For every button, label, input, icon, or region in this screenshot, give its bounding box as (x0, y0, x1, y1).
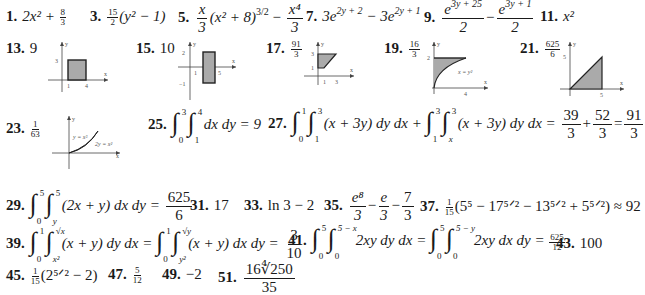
numerator: 39 (562, 108, 581, 125)
answer-49: 49.−2 (162, 266, 202, 283)
answer-25: 25.∫30∫41dx dy = 9 (148, 112, 261, 140)
answer-text: −2 (186, 266, 202, 282)
answer-33: 33.ln 3 − 2 (244, 197, 314, 214)
upper-limit: 5 − x (338, 223, 357, 233)
answer-number: 21. (520, 40, 539, 56)
denominator: 3 (196, 19, 208, 35)
upper-limit: 1 (40, 226, 45, 236)
y-arrow-icon (316, 42, 320, 46)
fraction: 913 (291, 40, 302, 59)
fraction: 115 (31, 267, 40, 286)
answer-number: 1. (6, 8, 17, 24)
denominator: 2 (509, 19, 521, 35)
denominator: 3 (628, 125, 640, 141)
lower-limit: 0 (179, 135, 184, 145)
numerator: 91 (624, 108, 643, 125)
answer-number: 33. (244, 197, 263, 213)
graph-19: y x 2 4 x = y² (422, 40, 490, 96)
answer-number: 51. (218, 269, 237, 285)
answer-text: 2x² + (22, 8, 58, 24)
tick-label: 1 (194, 70, 197, 76)
answer-text: ln 3 − 2 (268, 197, 314, 213)
answer-text: 9 (30, 40, 38, 56)
answer-21: 21.6256 (520, 40, 561, 59)
x-arrow-icon (484, 86, 488, 90)
answer-text: (x² + 8) (210, 9, 256, 25)
answer-text: 3e (322, 8, 336, 24)
operator: = (614, 115, 622, 131)
shaded-region (68, 60, 86, 80)
answer-41: 41.∫50∫5 − x02xy dy dx = ∫50∫5 − y02xy d… (288, 228, 566, 256)
answer-number: 37. (420, 198, 439, 214)
tick-label: 1 (311, 65, 314, 71)
answer-text: (2⁵ᐟ² − 2) (41, 267, 98, 283)
lower-limit: 0 (319, 251, 324, 261)
denominator: 15 (31, 277, 40, 286)
answer-number: 13. (6, 40, 25, 56)
denominator: 3 (289, 19, 301, 35)
denominator: 2 (111, 18, 116, 27)
graph-17: y x 3 1 1 3 (304, 40, 356, 86)
exponent: 3/2 (256, 6, 269, 17)
fraction: 115 (445, 198, 454, 217)
x-arrow-icon (232, 65, 236, 69)
answer-text: (5⁵ − 17⁵ᐟ² − 13⁵ᐟ² + 5⁵ᐟ²) ≈ 92 (455, 198, 641, 214)
answer-number: 27. (268, 115, 287, 131)
answer-27: 27.∫10∫31(x + 3y) dy dx + ∫31∫3x(x + 3y)… (268, 108, 645, 141)
denominator: 3 (294, 50, 299, 59)
numerator: x (197, 2, 208, 19)
lower-limit: 0 (437, 251, 442, 261)
integral-sign: ∫50 (430, 228, 444, 256)
answer-37: 37.115(5⁵ − 17⁵ᐟ² − 13⁵ᐟ² + 5⁵ᐟ²) ≈ 92 (420, 197, 641, 217)
lower-limit: y (53, 216, 57, 226)
fraction: 152 (107, 8, 118, 27)
answer-number: 5. (178, 9, 189, 25)
answer-number: 39. (6, 235, 25, 251)
tick-label: 2 (182, 50, 185, 56)
exponent: 2y + 2 (336, 5, 362, 16)
integral-sign: ∫5 − x0 (328, 228, 354, 256)
answer-text: (x + 3y) dy dx = (458, 115, 560, 131)
x-label: x (620, 80, 623, 86)
tick-label: −1 (179, 81, 185, 87)
integral-sign: ∫10 (292, 111, 306, 139)
graph-15: y x 2 −1 1 5 (176, 40, 238, 102)
numerator: e3y + 25 (442, 2, 484, 19)
upper-limit: 3 (436, 106, 441, 116)
lower-limit: y² (179, 254, 186, 264)
answer-number: 29. (6, 197, 25, 213)
lower-limit: 0 (37, 216, 42, 226)
operator: + (583, 115, 591, 131)
curve-label: y = x³ (72, 134, 87, 140)
tick-label: 5 (218, 70, 221, 76)
numerator: 625 (166, 190, 193, 207)
fraction: 16∜25035 (244, 262, 295, 295)
fraction: 393 (562, 108, 581, 141)
graph-23: y x y = x³ 2y = x² (52, 113, 122, 171)
answer-43: 43.100 (556, 235, 602, 252)
denominator: 3 (378, 207, 390, 223)
fraction: 6256 (166, 190, 193, 223)
denominator: 6 (550, 50, 555, 59)
graph-21: y x 5 5 (558, 40, 626, 98)
answer-45: 45.115(2⁵ᐟ² − 2) (6, 266, 97, 286)
answer-number: 7. (306, 8, 317, 24)
curve-label: x = y² (457, 69, 472, 75)
y-label: y (321, 41, 324, 47)
denominator: 63 (31, 130, 40, 139)
answer-31: 31.17 (190, 197, 229, 214)
fraction: x⁴3 (287, 2, 303, 35)
x-label: x (104, 71, 107, 77)
numerator: e (379, 190, 390, 207)
lower-limit: 0 (163, 254, 168, 264)
y-label: y (72, 116, 75, 122)
numerator: 7 (402, 190, 414, 207)
tick-label: 5 (600, 92, 603, 98)
numerator: e⁸ (350, 190, 366, 207)
lower-limit: x² (53, 254, 60, 264)
answer-text: x² (563, 8, 574, 24)
tick-label: 3 (335, 79, 338, 85)
answer-17: 17.913 (266, 40, 303, 59)
fraction: e3y + 12 (497, 2, 534, 35)
upper-limit: 3 (452, 106, 457, 116)
